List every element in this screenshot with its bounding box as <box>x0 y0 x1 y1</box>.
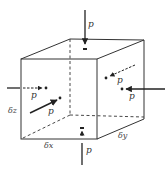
label-p-bottom: p <box>86 145 92 155</box>
bottom-pressure-arrow <box>80 127 84 165</box>
cube-edges <box>21 39 144 139</box>
label-dim-z: δz <box>8 106 18 115</box>
label-p-right: p <box>129 91 135 101</box>
label-p-left: p <box>31 90 37 100</box>
left-pressure-arrow <box>7 87 47 90</box>
label-dim-x: δx <box>44 141 54 150</box>
label-p-back: p <box>117 75 123 85</box>
hidden-edges <box>21 39 144 139</box>
right-pressure-arrow <box>121 88 165 91</box>
top-pressure-arrow <box>83 10 87 50</box>
top-face <box>21 39 144 59</box>
label-p-top: p <box>88 19 94 29</box>
pressure-cube-diagram: p p p p p p δx δy δz <box>0 0 167 172</box>
label-p-front: p <box>48 106 54 116</box>
label-dim-y: δy <box>118 131 128 140</box>
